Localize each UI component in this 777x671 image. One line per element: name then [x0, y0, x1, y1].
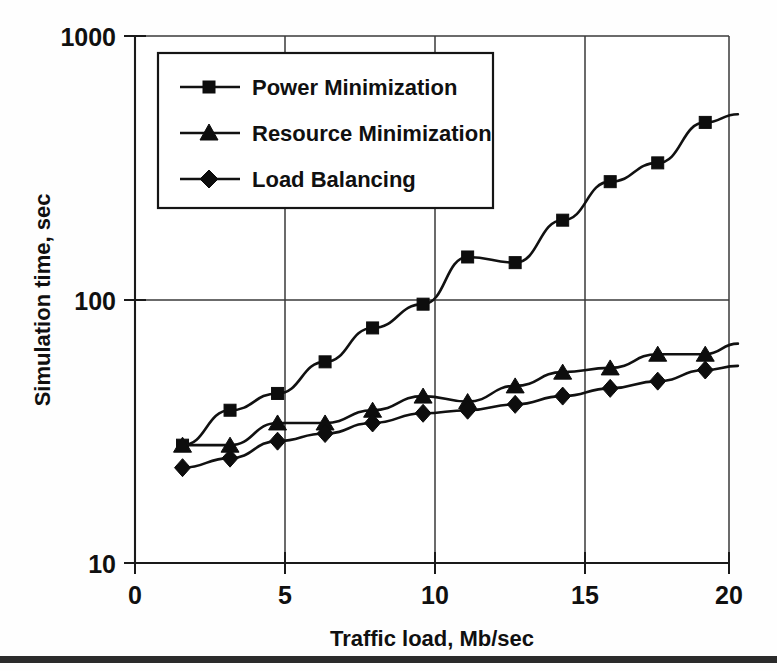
y-axis-title: Simulation time, sec — [30, 194, 55, 407]
square-marker-icon — [319, 356, 331, 368]
y-tick-label-100: 100 — [74, 287, 116, 315]
x-tick-label-20: 20 — [715, 581, 743, 609]
square-marker-icon — [652, 157, 664, 169]
square-marker-icon — [462, 251, 474, 263]
square-marker-icon — [557, 214, 569, 226]
figure-container: 1000 100 10 0 5 10 15 20 Traffic load, M… — [0, 0, 777, 671]
square-marker-icon — [203, 81, 215, 93]
square-marker-icon — [272, 387, 284, 399]
x-tick-label-10: 10 — [421, 581, 449, 609]
y-tick-label-1000: 1000 — [60, 23, 116, 51]
page-edge-bar — [0, 656, 777, 663]
x-tick-label-5: 5 — [278, 581, 292, 609]
square-marker-icon — [224, 404, 236, 416]
square-marker-icon — [367, 322, 379, 334]
square-marker-icon — [604, 176, 616, 188]
line-chart: 1000 100 10 0 5 10 15 20 Traffic load, M… — [0, 0, 777, 671]
legend-label-2: Load Balancing — [252, 167, 416, 192]
legend-label-0: Power Minimization — [252, 75, 457, 100]
x-axis-title: Traffic load, Mb/sec — [330, 626, 534, 651]
square-marker-icon — [509, 257, 521, 269]
chart-legend: Power Minimization Resource Minimization… — [158, 53, 493, 208]
x-tick-label-0: 0 — [128, 581, 142, 609]
square-marker-icon — [417, 298, 429, 310]
y-tick-label-10: 10 — [88, 550, 116, 578]
square-marker-icon — [699, 116, 711, 128]
legend-label-1: Resource Minimization — [252, 121, 492, 146]
x-tick-label-15: 15 — [571, 581, 599, 609]
